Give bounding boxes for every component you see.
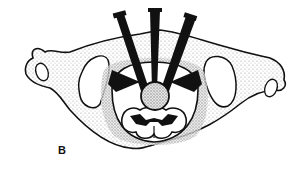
vertebral-body <box>141 82 169 110</box>
panel-label: B <box>58 144 66 156</box>
vertebra-diagram: B <box>0 0 308 173</box>
